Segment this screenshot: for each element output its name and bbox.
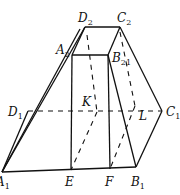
label-d2: D2 bbox=[77, 11, 93, 27]
label-d1: D1 bbox=[7, 105, 23, 121]
hidden-k-e bbox=[71, 112, 97, 170]
label-k: K bbox=[81, 95, 92, 109]
label-l: L bbox=[138, 109, 147, 123]
frustum-diagram: D2 C2 A2 B21 D1 C1 K L A1 E F B1 bbox=[0, 0, 180, 195]
label-e: E bbox=[64, 175, 74, 189]
edge-a1-b1 bbox=[2, 167, 136, 172]
label-c1: C1 bbox=[166, 105, 180, 121]
edge-d1-a1 bbox=[2, 111, 28, 172]
label-a2: A2 bbox=[55, 43, 70, 59]
label-a1: A1 bbox=[0, 175, 10, 191]
label-b1: B1 bbox=[130, 175, 145, 191]
label-c2: C2 bbox=[117, 11, 131, 27]
edge-b2-f bbox=[108, 55, 110, 169]
edge-a2-e bbox=[71, 55, 72, 170]
label-f: F bbox=[104, 175, 114, 189]
label-b2: B21 bbox=[111, 51, 131, 67]
edge-c2-c1 bbox=[120, 27, 162, 111]
